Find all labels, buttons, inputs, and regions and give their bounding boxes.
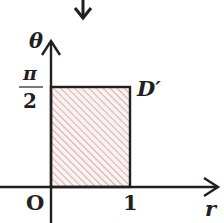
region-d-prime [51,87,130,187]
tick-numerator: π [22,62,38,84]
theta-tick-label: π 2 [19,62,43,113]
diagram-canvas: π 2 [0,0,224,223]
tick-denominator: 2 [23,89,37,113]
down-arrow-icon [75,0,91,18]
